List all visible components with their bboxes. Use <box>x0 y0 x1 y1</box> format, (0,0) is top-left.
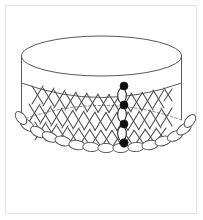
thread-bead-solid <box>120 82 128 90</box>
beadwork-cylinder-diagram: Netted beadwork cylinder diagram Line dr… <box>0 0 203 220</box>
rim-ellipse <box>22 36 182 76</box>
thread-bead-outlined <box>118 107 127 122</box>
thread-bead-outlined <box>118 88 127 103</box>
highlighted-thread-path <box>118 82 129 147</box>
band-front-curve <box>22 83 182 98</box>
hem-bead <box>98 143 115 152</box>
thread-bead-solid <box>120 139 128 147</box>
hem-bead <box>82 142 99 152</box>
figure-page: Netted beadwork cylinder diagram Line dr… <box>0 0 203 220</box>
thread-bead-solid <box>120 101 128 109</box>
thread-bead-solid <box>120 120 128 128</box>
